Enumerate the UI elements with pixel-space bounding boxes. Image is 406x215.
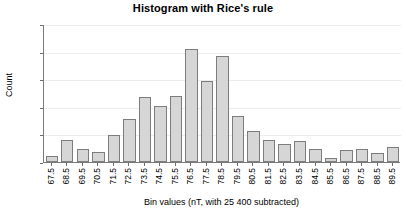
x-tick-label: 71.5 — [109, 168, 118, 185]
x-tick-label: 78.5 — [217, 168, 226, 185]
x-tick-slot: 72.5 — [121, 163, 137, 197]
x-tick-slot: 74.5 — [152, 163, 168, 197]
x-tick-mark — [330, 163, 331, 166]
x-tick-slot: 86.5 — [338, 163, 354, 197]
y-axis-title: Count — [4, 55, 14, 115]
y-tick-mark — [40, 80, 43, 81]
y-tick-mark — [40, 53, 43, 54]
x-tick-slot: 84.5 — [307, 163, 323, 197]
x-tick-mark — [361, 163, 362, 166]
x-tick-slot: 87.5 — [353, 163, 369, 197]
x-tick-mark — [206, 163, 207, 166]
x-tick-label: 85.5 — [326, 168, 335, 185]
x-tick-mark — [377, 163, 378, 166]
x-tick-mark — [346, 163, 347, 166]
x-tick-label: 72.5 — [124, 168, 133, 185]
x-tick-slot: 85.5 — [322, 163, 338, 197]
x-tick-slot: 88.5 — [369, 163, 385, 197]
x-tick-slot: 68.5 — [59, 163, 75, 197]
x-tick-mark — [175, 163, 176, 166]
x-tick-mark — [237, 163, 238, 166]
x-axis-title: Bin values (nT, with 25 400 subtracted) — [43, 197, 400, 207]
x-tick-slot: 67.5 — [43, 163, 59, 197]
x-tick-label: 76.5 — [186, 168, 195, 185]
x-tick-mark — [299, 163, 300, 166]
x-tick-slot: 70.5 — [90, 163, 106, 197]
x-tick-slot: 81.5 — [260, 163, 276, 197]
x-tick-label: 67.5 — [47, 168, 56, 185]
y-tick-mark — [40, 108, 43, 109]
x-tick-label: 83.5 — [295, 168, 304, 185]
y-tick-mark — [40, 135, 43, 136]
x-tick-mark — [315, 163, 316, 166]
x-tick-label: 79.5 — [233, 168, 242, 185]
chart-title: Histogram with Rice's rule — [0, 2, 406, 14]
x-tick-mark — [113, 163, 114, 166]
x-tick-label: 88.5 — [372, 168, 381, 185]
x-tick-mark — [221, 163, 222, 166]
x-tick-label: 73.5 — [140, 168, 149, 185]
y-tick-mark — [40, 25, 43, 26]
x-tick-label: 81.5 — [264, 168, 273, 185]
x-tick-slot: 80.5 — [245, 163, 261, 197]
x-tick-mark — [51, 163, 52, 166]
x-tick-slot: 76.5 — [183, 163, 199, 197]
x-tick-label: 69.5 — [78, 168, 87, 185]
x-tick-slot: 79.5 — [229, 163, 245, 197]
x-tick-mark — [128, 163, 129, 166]
x-tick-mark — [190, 163, 191, 166]
x-tick-mark — [252, 163, 253, 166]
x-tick-label: 87.5 — [357, 168, 366, 185]
x-tick-label: 89.5 — [388, 168, 397, 185]
x-tick-slot: 82.5 — [276, 163, 292, 197]
x-tick-slot: 75.5 — [167, 163, 183, 197]
x-tick-label: 84.5 — [310, 168, 319, 185]
y-axis-ticks: 050100150200250 — [43, 25, 400, 163]
x-tick-slot: 89.5 — [384, 163, 400, 197]
x-tick-mark — [66, 163, 67, 166]
x-tick-slot: 69.5 — [74, 163, 90, 197]
x-tick-label: 86.5 — [341, 168, 350, 185]
x-tick-label: 75.5 — [171, 168, 180, 185]
x-tick-label: 68.5 — [62, 168, 71, 185]
x-tick-label: 80.5 — [248, 168, 257, 185]
x-tick-slot: 73.5 — [136, 163, 152, 197]
x-tick-mark — [283, 163, 284, 166]
x-tick-slot: 77.5 — [198, 163, 214, 197]
x-tick-slot: 83.5 — [291, 163, 307, 197]
histogram-figure: Histogram with Rice's rule Count 0501001… — [0, 0, 406, 215]
x-tick-label: 70.5 — [93, 168, 102, 185]
x-tick-mark — [82, 163, 83, 166]
x-tick-label: 74.5 — [155, 168, 164, 185]
x-tick-slot: 78.5 — [214, 163, 230, 197]
x-tick-mark — [392, 163, 393, 166]
x-tick-label: 77.5 — [202, 168, 211, 185]
x-tick-mark — [268, 163, 269, 166]
x-tick-slot: 71.5 — [105, 163, 121, 197]
x-axis-ticks: 67.568.569.570.571.572.573.574.575.576.5… — [43, 163, 400, 197]
x-tick-mark — [97, 163, 98, 166]
x-tick-label: 82.5 — [279, 168, 288, 185]
x-tick-mark — [159, 163, 160, 166]
x-tick-mark — [144, 163, 145, 166]
